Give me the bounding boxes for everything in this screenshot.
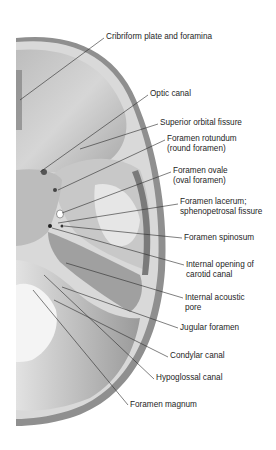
label-sup-orbital: Superior orbital fissure xyxy=(160,118,242,128)
label-text: Jugular foramen xyxy=(180,323,239,333)
label-jugular: Jugular foramen xyxy=(180,323,239,333)
label-text: Condylar canal xyxy=(170,351,225,361)
label-text: Foramen ovale xyxy=(173,166,228,176)
label-text: Hypoglossal canal xyxy=(156,373,222,383)
label-rotundum: Foramen rotundum(round foramen) xyxy=(167,134,237,154)
label-text: Foramen spinosum xyxy=(184,233,254,243)
label-text: Foramen lacerum; xyxy=(180,197,262,207)
label-text: (round foramen) xyxy=(167,144,237,154)
label-ovale: Foramen ovale(oval foramen) xyxy=(173,166,228,186)
label-text: sphenopetrosal fissure xyxy=(180,207,262,217)
label-magnum: Foramen magnum xyxy=(130,400,197,410)
label-text: carotid canal xyxy=(186,270,254,280)
label-text: pore xyxy=(185,303,245,313)
label-text: Superior orbital fissure xyxy=(160,118,242,128)
label-text: Internal acoustic xyxy=(185,293,245,303)
label-text: Foramen rotundum xyxy=(167,134,237,144)
label-lacerum: Foramen lacerum;sphenopetrosal fissure xyxy=(180,197,262,217)
label-spinosum: Foramen spinosum xyxy=(184,233,254,243)
label-cribriform: Cribriform plate and foramina xyxy=(106,32,212,42)
label-text: Foramen magnum xyxy=(130,400,197,410)
skull-illustration xyxy=(0,0,276,450)
label-hypoglossal: Hypoglossal canal xyxy=(156,373,222,383)
label-text: (oval foramen) xyxy=(173,176,228,186)
label-text: Cribriform plate and foramina xyxy=(106,32,212,42)
skull-base-figure: Cribriform plate and foraminaOptic canal… xyxy=(0,0,276,450)
label-acoustic: Internal acousticpore xyxy=(185,293,245,313)
label-text: Internal opening of xyxy=(186,260,254,270)
label-condylar: Condylar canal xyxy=(170,351,225,361)
label-text: Optic canal xyxy=(150,89,191,99)
label-carotid: Internal opening ofcarotid canal xyxy=(186,260,254,280)
label-optic: Optic canal xyxy=(150,89,191,99)
